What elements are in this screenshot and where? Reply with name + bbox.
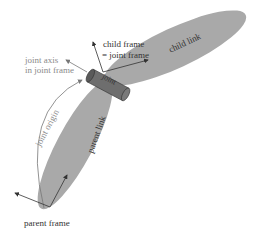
joint-axis-label: joint axis <box>24 55 59 65</box>
child-frame-label: child frame <box>103 39 144 49</box>
urdf-joint-diagram: child frame = joint frame joint axis in … <box>0 0 257 240</box>
child-frame-label-2: = joint frame <box>102 50 149 60</box>
parent-frame-label: parent frame <box>24 218 70 228</box>
joint-axis-label-2: in joint frame <box>25 65 74 75</box>
